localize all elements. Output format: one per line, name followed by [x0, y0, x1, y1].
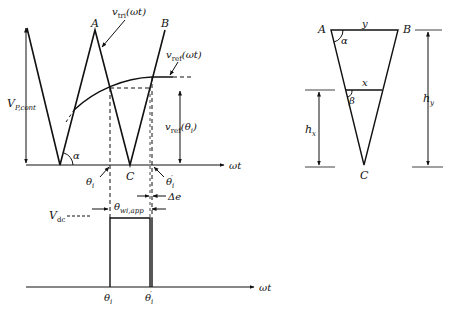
point-c-label: C [126, 170, 135, 183]
vp-cont-label: VP,cont [7, 97, 36, 112]
pulse-plot: Vdc θwi,app ωt θi θi′ [26, 201, 272, 306]
theta-i-pointer-arrow [100, 167, 109, 177]
alpha-angle-arc [64, 153, 73, 165]
vtri-label: vtri(ωt) [112, 6, 146, 20]
hy-label: hy [423, 92, 435, 107]
vref-theta-label: vref(θi) [165, 121, 197, 135]
vref-label: vref(ωt) [166, 49, 202, 63]
x-width-label: x [362, 77, 368, 88]
vtri-pointer-arrow [102, 20, 125, 47]
pwm-geometry-diagram: A B C α vtri(ωt) vref(ωt) vref(θi) VP,co… [0, 0, 450, 313]
pulse-theta-i-prime-label: θi′ [145, 290, 153, 306]
point-a-label: A [90, 17, 99, 30]
delta-e-label: Δe [167, 191, 181, 202]
vref-pointer-arrow [170, 62, 178, 75]
pulse-theta-i-label: θi [104, 292, 112, 306]
width-label: θwi,app [114, 201, 144, 215]
carrier-plot: A B C α vtri(ωt) vref(ωt) vref(θi) VP,co… [7, 6, 242, 218]
x-axis-label-bottom: ωt [259, 282, 272, 293]
pwm-pulse [110, 218, 150, 287]
reference-curve [74, 77, 173, 110]
triangle-point-b-label: B [402, 23, 411, 36]
triangle-point-c-label: C [360, 169, 369, 182]
theta-i-label: θi [86, 176, 94, 190]
triangle-alpha-label: α [341, 35, 348, 46]
beta-label: β [348, 95, 355, 106]
theta-i-prime-pointer-arrow [154, 167, 164, 177]
similar-triangle-diagram: A B C y x α β hx hy [305, 18, 443, 182]
vdc-label: Vdc [49, 209, 65, 224]
hx-label: hx [305, 123, 316, 138]
y-width-label: y [361, 18, 368, 29]
alpha-label: α [73, 150, 80, 161]
point-b-label: B [160, 17, 169, 30]
triangle-point-a-label: A [317, 23, 326, 36]
x-axis-label-top: ωt [229, 160, 242, 171]
theta-i-prime-label: θi′ [166, 174, 174, 190]
triangle-carrier-wave [27, 28, 165, 165]
triangle-abc [331, 30, 398, 165]
